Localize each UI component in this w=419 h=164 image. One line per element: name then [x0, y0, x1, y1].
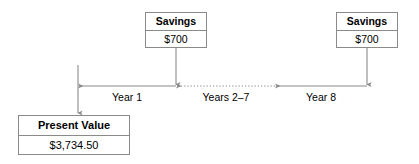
savings-box-year-1-header: Savings — [146, 13, 206, 31]
present-value-header: Present Value — [19, 116, 129, 136]
savings-box-year-8: Savings $700 — [336, 12, 398, 48]
savings-box-year-8-header: Savings — [337, 13, 397, 31]
savings-box-year-1: Savings $700 — [145, 12, 207, 48]
present-value-box: Present Value $3,734.50 — [18, 115, 130, 155]
present-value-amount: $3,734.50 — [19, 136, 129, 155]
diagram-canvas: Savings $700 Savings $700 Present Value … — [0, 0, 419, 164]
timeline-label-years-2-7: Years 2–7 — [203, 91, 250, 103]
timeline-label-year-8: Year 8 — [306, 91, 336, 103]
timeline-label-year-1: Year 1 — [112, 91, 142, 103]
savings-box-year-8-value: $700 — [337, 31, 397, 48]
savings-box-year-1-value: $700 — [146, 31, 206, 48]
